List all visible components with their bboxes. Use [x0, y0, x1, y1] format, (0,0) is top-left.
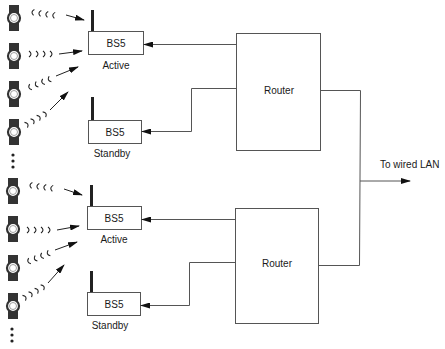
- mobile-device-icon[interactable]: [7, 255, 19, 281]
- antenna-icon: [91, 97, 94, 120]
- router[interactable]: Router: [237, 34, 321, 151]
- router[interactable]: Router: [236, 209, 319, 324]
- base-station-status: Standby: [92, 320, 129, 331]
- radio-wave-icon: [27, 242, 77, 264]
- base-station-standby[interactable]: BS5 Standby: [88, 271, 141, 331]
- base-station-label: BS5: [107, 38, 126, 49]
- antenna-icon: [91, 10, 94, 32]
- mobile-device-icon[interactable]: [7, 178, 19, 204]
- radio-wave-icon: [32, 9, 84, 20]
- base-station-status: Active: [102, 60, 130, 71]
- base-station-status: Standby: [94, 148, 131, 159]
- network-diagram: BS5 Active BS5 Standby Router: [0, 0, 445, 349]
- radio-wave-icon: [28, 67, 78, 90]
- lan-uplink: To wired LAN: [319, 91, 440, 266]
- radio-wave-icon: [30, 182, 82, 195]
- mobile-device-icon[interactable]: [8, 5, 20, 31]
- base-station-label: BS5: [106, 127, 125, 138]
- antenna-icon: [90, 271, 93, 293]
- link-router-to-standby: [141, 263, 236, 306]
- radio-wave-icon: [29, 51, 82, 57]
- base-station-active[interactable]: BS5 Active: [88, 185, 142, 245]
- base-station-standby[interactable]: BS5 Standby: [89, 97, 142, 159]
- base-station-label: BS5: [105, 299, 124, 310]
- mobile-device-icon[interactable]: [8, 43, 20, 69]
- base-station-active[interactable]: BS5 Active: [89, 10, 144, 71]
- radio-wave-icon: [25, 92, 69, 128]
- mobile-device-icon[interactable]: [7, 216, 19, 242]
- mobile-device-icon[interactable]: [7, 293, 19, 319]
- group-1: BS5 Active BS5 Standby Router: [8, 5, 321, 169]
- more-devices-ellipsis-icon: [10, 327, 13, 342]
- mobile-device-icon[interactable]: [8, 119, 20, 145]
- radio-wave-icon: [27, 226, 79, 233]
- radio-wave-icon: [23, 265, 65, 301]
- base-station-label: BS5: [105, 213, 124, 224]
- uplink-label: To wired LAN: [380, 159, 439, 170]
- mobile-device-icon[interactable]: [8, 81, 20, 107]
- group-2: BS5 Active BS5 Standby Router: [7, 178, 319, 343]
- base-station-status: Active: [100, 234, 128, 245]
- router-label: Router: [262, 258, 293, 269]
- more-devices-ellipsis-icon: [11, 153, 14, 168]
- antenna-icon: [90, 185, 93, 207]
- router-label: Router: [264, 85, 295, 96]
- link-router-to-standby: [142, 89, 237, 132]
